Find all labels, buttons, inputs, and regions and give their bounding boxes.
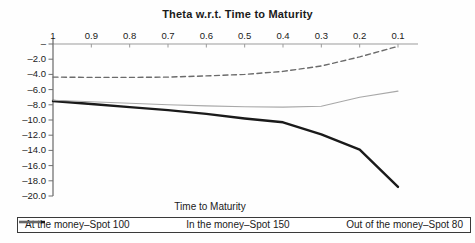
svg-text:0.2: 0.2 bbox=[353, 30, 366, 41]
x-axis-tick-labels: 10.90.80.70.60.50.40.30.20.1 bbox=[50, 30, 404, 41]
y-axis-tick-labels: ––2.0–4.0–6.0–8.0–10.0–12.0–14.0–16.0–18… bbox=[22, 38, 46, 201]
svg-text:–18.0: –18.0 bbox=[22, 175, 46, 186]
svg-text:0.5: 0.5 bbox=[238, 30, 251, 41]
svg-text:–2.0: –2.0 bbox=[28, 53, 47, 64]
legend-label-itm: In the money–Spot 150 bbox=[186, 218, 289, 232]
plot-svg: 10.90.80.70.60.50.40.30.20.1 ––2.0–4.0–6… bbox=[0, 0, 475, 215]
svg-text:–16.0: –16.0 bbox=[22, 160, 46, 171]
svg-text:–8.0: –8.0 bbox=[28, 99, 47, 110]
legend-item-otm: Out of the money–Spot 80 bbox=[346, 218, 463, 232]
svg-text:–6.0: –6.0 bbox=[28, 84, 47, 95]
figure: Theta w.r.t. Time to Maturity 10.90.80.7… bbox=[0, 0, 475, 243]
series-lines bbox=[53, 46, 398, 187]
svg-text:0.8: 0.8 bbox=[123, 30, 136, 41]
series-line-2 bbox=[53, 46, 398, 77]
series-line-0 bbox=[53, 101, 398, 187]
svg-text:–14.0: –14.0 bbox=[22, 144, 46, 155]
svg-text:0.6: 0.6 bbox=[200, 30, 213, 41]
svg-text:0.3: 0.3 bbox=[315, 30, 328, 41]
svg-text:0.4: 0.4 bbox=[276, 30, 289, 41]
svg-text:–: – bbox=[41, 38, 47, 49]
y-axis-ticks bbox=[49, 44, 54, 196]
svg-text:1: 1 bbox=[50, 30, 55, 41]
x-axis-title: Time to Maturity bbox=[0, 201, 420, 212]
legend: At the money–Spot 100 In the money–Spot … bbox=[17, 217, 471, 233]
svg-text:–10.0: –10.0 bbox=[22, 114, 46, 125]
svg-text:0.9: 0.9 bbox=[85, 30, 98, 41]
svg-text:–12.0: –12.0 bbox=[22, 129, 46, 140]
svg-text:–4.0: –4.0 bbox=[28, 68, 47, 79]
otm-line-swatch-icon bbox=[18, 218, 44, 226]
legend-item-itm: In the money–Spot 150 bbox=[186, 218, 289, 232]
svg-text:0.1: 0.1 bbox=[391, 30, 404, 41]
x-axis-ticks bbox=[53, 44, 398, 48]
svg-text:–20.0: –20.0 bbox=[22, 190, 46, 201]
svg-text:0.7: 0.7 bbox=[161, 30, 174, 41]
legend-label-otm: Out of the money–Spot 80 bbox=[346, 218, 463, 232]
